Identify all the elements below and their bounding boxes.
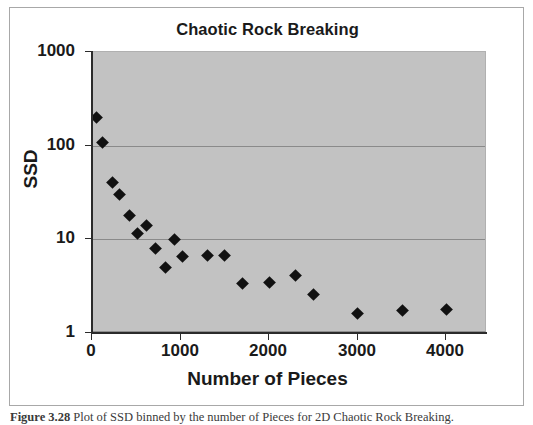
y-axis-line: [91, 51, 93, 333]
x-axis-tick-label: 0: [46, 342, 136, 359]
data-point-marker: [113, 188, 126, 201]
y-gridline: [92, 239, 485, 240]
data-point-marker: [168, 233, 181, 246]
y-axis-tick-label: 10: [5, 229, 75, 246]
x-axis-tick: [91, 334, 92, 340]
data-point-marker: [176, 250, 189, 263]
x-axis-line: [91, 332, 487, 334]
x-axis-tick-label: 3000: [312, 342, 402, 359]
figure-caption-text: Plot of SSD binned by the number of Piec…: [70, 410, 454, 424]
y-axis-tick: [85, 51, 91, 52]
data-point-marker: [201, 249, 214, 262]
y-axis-tick-label: 1: [5, 323, 75, 340]
data-point-marker: [440, 303, 453, 316]
x-axis-title: Number of Pieces: [10, 368, 525, 390]
y-axis-tick-label: 1000: [5, 42, 75, 59]
x-axis-tick: [268, 334, 269, 340]
data-point-marker: [106, 177, 119, 190]
data-point-marker: [218, 249, 231, 262]
chart-title: Chaotic Rock Breaking: [10, 20, 525, 39]
x-axis-tick: [445, 334, 446, 340]
data-point-marker: [307, 288, 320, 301]
data-point-marker: [141, 219, 154, 232]
plot-area: [91, 51, 486, 332]
figure-caption-prefix: Figure 3.28: [10, 410, 70, 424]
data-point-marker: [351, 308, 364, 321]
data-point-marker: [159, 261, 172, 274]
y-axis-tick: [85, 238, 91, 239]
data-point-marker: [149, 242, 162, 255]
data-point-marker: [123, 209, 136, 222]
y-gridline: [92, 146, 485, 147]
data-point-marker: [396, 304, 409, 317]
x-axis-tick: [180, 334, 181, 340]
y-axis-tick: [85, 145, 91, 146]
data-point-marker: [236, 277, 249, 290]
x-axis-tick: [357, 334, 358, 340]
x-axis-tick-label: 2000: [223, 342, 313, 359]
x-axis-tick-label: 1000: [135, 342, 225, 359]
data-point-marker: [263, 276, 276, 289]
data-point-marker: [289, 269, 302, 282]
y-axis-title: SSD: [20, 124, 42, 214]
x-axis-tick-label: 4000: [400, 342, 490, 359]
figure-caption: Figure 3.28 Plot of SSD binned by the nu…: [10, 410, 530, 425]
y-axis-tick: [85, 332, 91, 333]
chart-frame: Chaotic Rock Breaking 1101001000 0100020…: [9, 7, 524, 406]
